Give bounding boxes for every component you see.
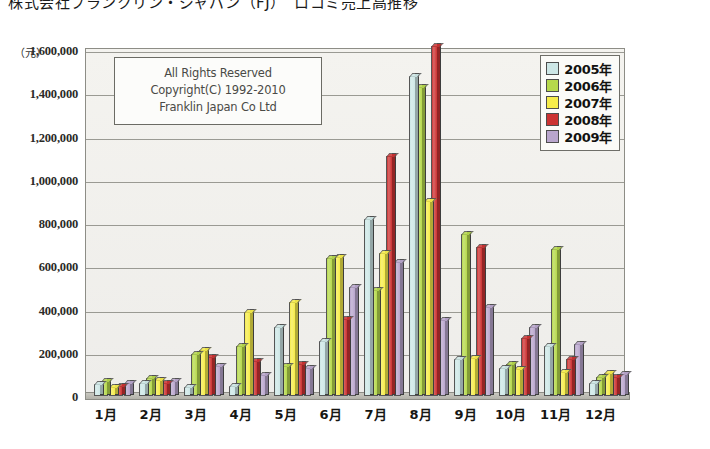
bar-side-face xyxy=(580,341,584,395)
y-axis-tick-label: 1,600,000 xyxy=(0,44,78,59)
legend-item-2006年[interactable]: 2006年 xyxy=(546,77,612,94)
bar-side-face xyxy=(302,361,306,395)
copyright-line-1: All Rights Reserved xyxy=(119,65,317,82)
bar-side-face xyxy=(490,304,494,395)
bar-side-face xyxy=(355,284,359,395)
bar-side-face xyxy=(565,369,569,395)
bar-side-face xyxy=(610,370,614,395)
x-axis-tick-label: 5月 xyxy=(274,404,296,423)
bar-side-face xyxy=(550,343,554,395)
bar-side-face xyxy=(287,363,291,395)
y-axis-tick-label: 1,400,000 xyxy=(0,87,78,102)
bar-side-face xyxy=(460,356,464,395)
bar-side-face xyxy=(572,356,576,395)
legend-swatch-icon xyxy=(546,113,559,126)
y-axis-tick-label: 1,200,000 xyxy=(0,130,78,145)
copyright-line-3: Franklin Japan Co Ltd xyxy=(119,99,317,116)
x-axis-tick-label: 6月 xyxy=(319,404,341,423)
x-axis-tick-label: 2月 xyxy=(139,404,161,423)
chart-plot-area: All Rights Reserved Copyright(C) 1992-20… xyxy=(85,48,625,400)
legend-item-2009年[interactable]: 2009年 xyxy=(546,128,612,145)
bar-side-face xyxy=(325,338,329,395)
bar-top-face xyxy=(289,299,302,303)
bar-side-face xyxy=(475,355,479,395)
bar-side-face xyxy=(415,73,419,395)
legend-item-2007年[interactable]: 2007年 xyxy=(546,94,612,111)
bar-top-face xyxy=(551,246,564,250)
legend-item-2005年[interactable]: 2005年 xyxy=(546,60,612,77)
bar-side-face xyxy=(377,287,381,395)
bar-group xyxy=(401,49,446,399)
x-axis-tick-label: 7月 xyxy=(364,404,386,423)
bar-2005年-2月 xyxy=(139,383,146,396)
bar-side-face xyxy=(467,231,471,395)
bar-side-face xyxy=(400,259,404,395)
bar-side-face xyxy=(212,354,216,395)
bar-2005年-9月 xyxy=(454,359,461,396)
y-axis-tick-label: 200,000 xyxy=(0,346,78,361)
bar-side-face xyxy=(242,343,246,395)
bar-side-face xyxy=(505,365,509,395)
bar-side-face xyxy=(347,316,351,395)
x-axis-tick-label: 11月 xyxy=(540,404,571,423)
chart-legend: 2005年2006年2007年2008年2009年 xyxy=(540,55,620,151)
bar-side-face xyxy=(512,361,516,395)
bar-group xyxy=(446,49,491,399)
bar-2005年-11月 xyxy=(544,346,551,396)
bar-top-face xyxy=(274,324,287,328)
page-title: 株式会社フランクリン・ジャパン（FJ） ロコミ売上高推移 xyxy=(8,0,418,12)
x-axis-tick-label: 12月 xyxy=(585,404,616,423)
bar-side-face xyxy=(257,358,261,395)
bar-2005年-12月 xyxy=(589,383,596,396)
legend-item-2008年[interactable]: 2008年 xyxy=(546,111,612,128)
bar-side-face xyxy=(280,324,284,395)
bar-2005年-8月 xyxy=(409,76,416,396)
bar-side-face xyxy=(205,347,209,395)
y-axis-tick-label: 400,000 xyxy=(0,303,78,318)
x-axis-tick-label: 1月 xyxy=(94,404,116,423)
bar-side-face xyxy=(340,254,344,395)
bar-side-face xyxy=(220,363,224,395)
y-axis-tick-label: 600,000 xyxy=(0,260,78,275)
bar-2005年-6月 xyxy=(319,341,326,396)
bar-side-face xyxy=(527,335,531,395)
bar-group xyxy=(356,49,401,399)
bar-2005年-5月 xyxy=(274,327,281,396)
bar-top-face xyxy=(476,244,489,248)
bar-side-face xyxy=(370,216,374,395)
bar-side-face xyxy=(445,317,449,395)
legend-swatch-icon xyxy=(546,96,559,109)
bar-top-face xyxy=(364,216,377,220)
y-axis-tick-label: 0 xyxy=(0,390,78,405)
bar-2005年-1月 xyxy=(94,384,101,396)
copyright-notice: All Rights Reserved Copyright(C) 1992-20… xyxy=(114,57,322,125)
legend-swatch-icon xyxy=(546,79,559,92)
y-axis-tick-label: 1,000,000 xyxy=(0,173,78,188)
bar-2005年-10月 xyxy=(499,368,506,396)
bar-top-face xyxy=(409,73,422,77)
bar-side-face xyxy=(430,198,434,395)
bar-top-face xyxy=(431,43,444,47)
bar-2005年-7月 xyxy=(364,219,371,396)
bar-side-face xyxy=(295,299,299,395)
bar-side-face xyxy=(392,153,396,395)
bar-side-face xyxy=(332,255,336,395)
legend-label: 2009年 xyxy=(564,127,612,146)
x-axis-tick-label: 9月 xyxy=(454,404,476,423)
x-axis-tick-label: 3月 xyxy=(184,404,206,423)
bar-side-face xyxy=(520,366,524,395)
bar-top-face xyxy=(461,231,474,235)
x-axis-tick-label: 10月 xyxy=(495,404,526,423)
bar-top-face xyxy=(244,309,257,313)
bar-top-face xyxy=(386,153,399,157)
bar-group xyxy=(491,49,536,399)
bar-side-face xyxy=(535,324,539,395)
bar-side-face xyxy=(422,84,426,395)
x-axis-tick-label: 8月 xyxy=(409,404,431,423)
bar-2005年-3月 xyxy=(184,387,191,396)
legend-swatch-icon xyxy=(546,62,559,75)
x-axis-tick-label: 4月 xyxy=(229,404,251,423)
bar-2005年-4月 xyxy=(229,386,236,396)
bar-side-face xyxy=(385,250,389,395)
bar-side-face xyxy=(437,43,441,395)
